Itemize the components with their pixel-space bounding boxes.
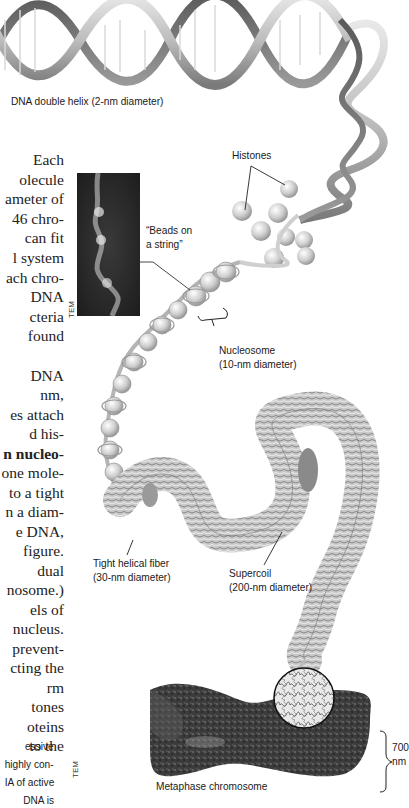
nucleosome-label-line1: Nucleosome [219,343,275,357]
body-line: e DNA, [16,522,64,542]
supercoil-label-line2: (200-nm diameter) [229,580,312,594]
metaphase-chromosome-label: Metaphase chromosome [156,779,267,793]
dna-helix-label: DNA double helix (2-nm diameter) [11,94,163,108]
scale-700-label: 700 [392,740,409,754]
tem-micrograph-beads [77,173,140,316]
body-line: ach chro- [6,268,64,288]
body-line: nosome.) [7,580,64,600]
body-line: olecule [19,170,64,190]
caption-line: highly con- [5,755,54,774]
metaphase-chromosome [150,668,371,776]
body-line: tones [31,697,64,717]
body-line: one mole- [2,463,64,483]
body-line: rm [47,678,64,698]
body-line: 46 chro- [12,209,64,229]
body-line: l system [13,248,64,268]
supercoil [120,408,363,660]
beads-on-string-label-line1: “Beads on [146,223,192,237]
body-line: ameter of [5,189,64,209]
body-line-nucleosome-term: n nucleo- [3,444,64,464]
body-line: d his- [29,424,64,444]
caption-line: DNA is [23,791,54,808]
body-line: es attach [10,405,64,425]
body-line: found [28,326,64,346]
body-line: figure. [23,541,64,561]
histone-beads [232,180,315,268]
body-line: n a diam- [5,502,64,522]
supercoil-label-line1: Supercoil [229,566,271,580]
body-line: Each [33,150,64,170]
body-line: cting the [10,658,64,678]
body-line: DNA [30,366,64,386]
caption-line: IA of active [4,773,54,792]
body-line: oteins [27,717,64,737]
body-line: DNA [30,287,64,307]
histones-label: Histones [232,148,271,162]
body-line: prevent- [12,639,64,659]
body-line: can fit [25,228,64,248]
body-line: to a tight [9,483,64,503]
scale-nm-label: nm [392,754,406,768]
body-line: cteria [30,307,64,327]
body-line: dual [37,561,64,581]
tight-helical-fiber-label-line1: Tight helical fiber [93,556,169,570]
body-line: nm, [40,385,64,405]
nucleosome-label-line2: (10-nm diameter) [219,357,297,371]
tem-label-top: TEM [67,301,76,318]
body-line: nucleus. [13,619,64,639]
tight-helical-fiber-label-line2: (30-nm diameter) [93,570,171,584]
caption-line: essive [25,737,54,756]
beads-on-string-label-line2: a string” [146,237,183,251]
tem-label-bottom: TEM [71,761,80,778]
body-line: els of [30,600,64,620]
